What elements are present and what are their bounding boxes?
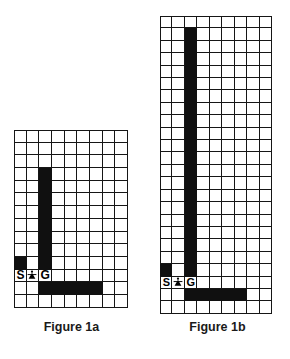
grid-cell [260, 128, 272, 140]
wall-cell [185, 53, 197, 65]
grid-cell [247, 103, 259, 115]
grid-cell [235, 53, 247, 65]
grid-cell [77, 232, 90, 245]
grid-cell [103, 232, 116, 245]
grid-cell [197, 28, 209, 40]
wall-cell [39, 206, 52, 219]
grid-cell [160, 90, 172, 102]
grid-cell [27, 130, 40, 143]
grid-cell [77, 244, 90, 257]
grid-cell [222, 53, 234, 65]
goal-cell: G [185, 277, 197, 289]
grid-cell [235, 66, 247, 78]
wall-cell [185, 289, 197, 301]
grid-cell [160, 103, 172, 115]
wall-cell [185, 165, 197, 177]
grid-cell [197, 252, 209, 264]
grid-cell [52, 295, 65, 308]
grid-cell [27, 295, 40, 308]
grid-cell [65, 168, 78, 181]
grid-cell [160, 190, 172, 202]
grid-cell [14, 244, 27, 257]
grid-cell [210, 252, 222, 264]
wall-cell [185, 78, 197, 90]
grid-cell [172, 103, 184, 115]
wall-cell [185, 115, 197, 127]
grid-cell [247, 277, 259, 289]
grid-cell [210, 190, 222, 202]
grid-cell [160, 177, 172, 189]
grid-cell [197, 140, 209, 152]
grid-cell [197, 190, 209, 202]
grid-cell [235, 215, 247, 227]
grid-cell [172, 41, 184, 53]
grid-cell [210, 301, 222, 313]
grid-cell [52, 181, 65, 194]
grid-cell [210, 16, 222, 28]
grid-cell [210, 66, 222, 78]
wall-cell [197, 289, 209, 301]
grid-figure-1b: SG [160, 16, 272, 314]
grid-cell [197, 66, 209, 78]
grid-cell [27, 244, 40, 257]
grid-cell [27, 282, 40, 295]
grid-cell [222, 301, 234, 313]
grid-cell [210, 41, 222, 53]
grid-cell [197, 165, 209, 177]
grid-cell [65, 257, 78, 270]
grid-cell [103, 244, 116, 257]
grid-cell [235, 227, 247, 239]
grid-cell [160, 289, 172, 301]
wall-cell [39, 181, 52, 194]
wall-cell [185, 215, 197, 227]
grid-cell [14, 282, 27, 295]
grid-cell [222, 264, 234, 276]
grid-cell [210, 140, 222, 152]
grid-cell [247, 140, 259, 152]
grid-cell [260, 202, 272, 214]
start-label: S [15, 270, 26, 282]
grid-cell [222, 202, 234, 214]
grid-cell [77, 257, 90, 270]
grid-cell [90, 143, 103, 156]
grid-cell [235, 152, 247, 164]
grid-cell [160, 301, 172, 313]
grid-cell [210, 177, 222, 189]
wall-cell [185, 239, 197, 251]
robot-icon [172, 277, 183, 288]
grid-cell [172, 90, 184, 102]
grid-cell [172, 66, 184, 78]
grid-cell [90, 155, 103, 168]
grid-cell [103, 181, 116, 194]
grid-cell [222, 277, 234, 289]
grid-cell [247, 190, 259, 202]
grid-cell [14, 130, 27, 143]
grid-cell [235, 239, 247, 251]
grid-cell [197, 239, 209, 251]
grid-cell [77, 181, 90, 194]
grid-cell [210, 115, 222, 127]
grid-cell [65, 181, 78, 194]
grid-cell [65, 232, 78, 245]
grid-cell [197, 16, 209, 28]
grid-cell [197, 277, 209, 289]
grid-cell [222, 78, 234, 90]
grid-cell [77, 155, 90, 168]
grid-cell [172, 301, 184, 313]
grid-cell [90, 130, 103, 143]
grid-cell [90, 244, 103, 257]
grid-cell [222, 115, 234, 127]
grid-cell [77, 270, 90, 283]
grid-cell [52, 168, 65, 181]
grid-cell [197, 90, 209, 102]
grid-cell [90, 219, 103, 232]
grid-cell [247, 177, 259, 189]
grid-cell [210, 28, 222, 40]
grid-cell [115, 219, 128, 232]
grid-cell [65, 219, 78, 232]
grid-cell [77, 193, 90, 206]
grid-cell [260, 252, 272, 264]
grid-cell [210, 239, 222, 251]
grid-cell [235, 277, 247, 289]
grid-cell [197, 128, 209, 140]
